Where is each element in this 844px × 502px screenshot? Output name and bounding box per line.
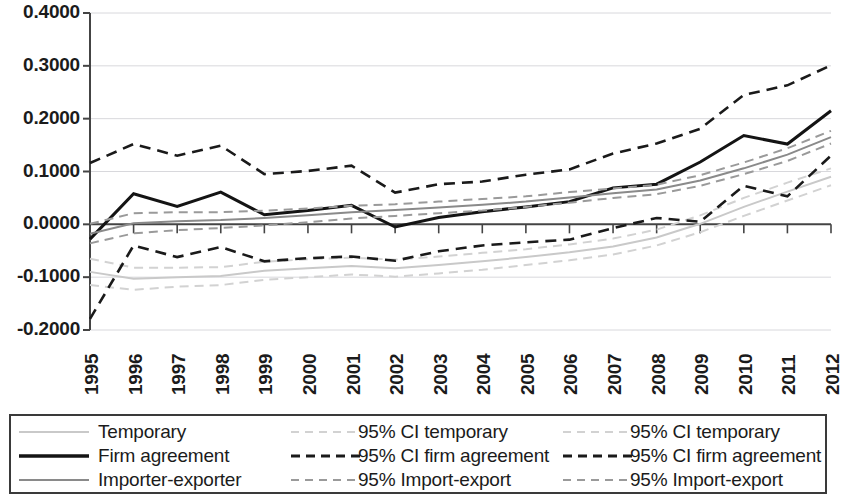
x-axis-tick-label: 2004 bbox=[473, 354, 495, 395]
legend-item-95-ci-firm-agreement[interactable]: 95% CI firm agreement bbox=[283, 444, 555, 468]
legend-line-swatch bbox=[17, 426, 91, 438]
x-axis-tick-label: 1999 bbox=[255, 354, 277, 395]
x-axis-tick-label: 2009 bbox=[691, 354, 713, 395]
x-axis-tick-label: 2011 bbox=[778, 355, 800, 395]
chart-legend: Temporary95% CI temporary95% CI temporar… bbox=[9, 414, 827, 494]
chart-svg bbox=[0, 0, 838, 405]
x-axis-tick-label: 2003 bbox=[430, 354, 452, 395]
y-axis-tick-label: 0.0000 bbox=[0, 212, 80, 234]
legend-line-swatch bbox=[561, 474, 623, 486]
x-axis-tick-label: 2007 bbox=[604, 354, 626, 395]
y-axis-tick-label: 0.1000 bbox=[0, 160, 80, 182]
legend-item-label: Temporary bbox=[98, 421, 186, 443]
legend-line-swatch bbox=[289, 450, 351, 462]
legend-item-95-ci-temporary[interactable]: 95% CI temporary bbox=[283, 420, 555, 444]
y-axis-tick-label: -0.2000 bbox=[0, 318, 80, 340]
legend-line-swatch bbox=[289, 474, 351, 486]
legend-line-swatch bbox=[17, 474, 91, 486]
x-axis-tick-label: 2012 bbox=[822, 354, 844, 395]
x-axis-tick-label: 2000 bbox=[299, 354, 321, 395]
legend-item-95-import-export[interactable]: 95% Import-export bbox=[555, 468, 821, 492]
y-axis-tick-label: 0.4000 bbox=[0, 1, 80, 23]
legend-item-label: 95% CI firm agreement bbox=[358, 445, 549, 467]
legend-item-firm-agreement[interactable]: Firm agreement bbox=[11, 444, 283, 468]
legend-item-label: 95% CI temporary bbox=[358, 421, 508, 443]
legend-item-importer-exporter[interactable]: Importer-exporter bbox=[11, 468, 283, 492]
y-axis-tick-label: -0.1000 bbox=[0, 265, 80, 287]
legend-line-swatch bbox=[17, 450, 91, 462]
legend-item-95-ci-firm-agreement[interactable]: 95% CI firm agreement bbox=[555, 444, 821, 468]
legend-item-95-ci-temporary[interactable]: 95% CI temporary bbox=[555, 420, 821, 444]
x-axis-tick-label: 1995 bbox=[81, 354, 103, 395]
x-axis-tick-label: 1998 bbox=[212, 354, 234, 395]
y-axis-tick-label: 0.2000 bbox=[0, 107, 80, 129]
y-axis-tick-label: 0.3000 bbox=[0, 54, 80, 76]
legend-grid: Temporary95% CI temporary95% CI temporar… bbox=[11, 420, 825, 492]
legend-item-label: 95% CI temporary bbox=[630, 421, 780, 443]
legend-item-label: 95% Import-export bbox=[630, 469, 783, 491]
x-axis-tick-label: 2001 bbox=[343, 354, 365, 395]
legend-item-label: Firm agreement bbox=[98, 445, 229, 467]
legend-item-label: 95% Import-export bbox=[358, 469, 511, 491]
x-axis-tick-label: 2006 bbox=[560, 354, 582, 395]
series-line-95-import-export-upper bbox=[90, 131, 831, 224]
x-axis-tick-label: 2010 bbox=[735, 354, 757, 395]
series-line-95-ci-firm-agreement-upper bbox=[90, 65, 831, 192]
x-axis-tick-label: 1997 bbox=[168, 354, 190, 395]
series-line-temporary bbox=[90, 177, 831, 279]
chart-plot-area: 0.40000.30000.20000.10000.0000-0.1000-0.… bbox=[0, 0, 838, 405]
legend-line-swatch bbox=[289, 426, 351, 438]
legend-item-95-import-export[interactable]: 95% Import-export bbox=[283, 468, 555, 492]
legend-line-swatch bbox=[561, 450, 623, 462]
legend-line-swatch bbox=[561, 426, 623, 438]
series-line-95-import-export-lower bbox=[90, 144, 831, 244]
x-axis-tick-label: 2008 bbox=[648, 354, 670, 395]
legend-item-label: 95% CI firm agreement bbox=[630, 445, 821, 467]
x-axis-tick-label: 2005 bbox=[517, 354, 539, 395]
legend-item-label: Importer-exporter bbox=[98, 469, 241, 491]
legend-item-temporary[interactable]: Temporary bbox=[11, 420, 283, 444]
x-axis-tick-label: 2002 bbox=[386, 354, 408, 395]
series-line-95-ci-temporary-lower bbox=[90, 185, 831, 290]
x-axis-tick-label: 1996 bbox=[125, 354, 147, 395]
